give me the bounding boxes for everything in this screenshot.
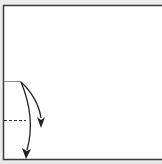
paper-sheet — [3, 5, 162, 160]
fold-diagram — [0, 0, 162, 164]
